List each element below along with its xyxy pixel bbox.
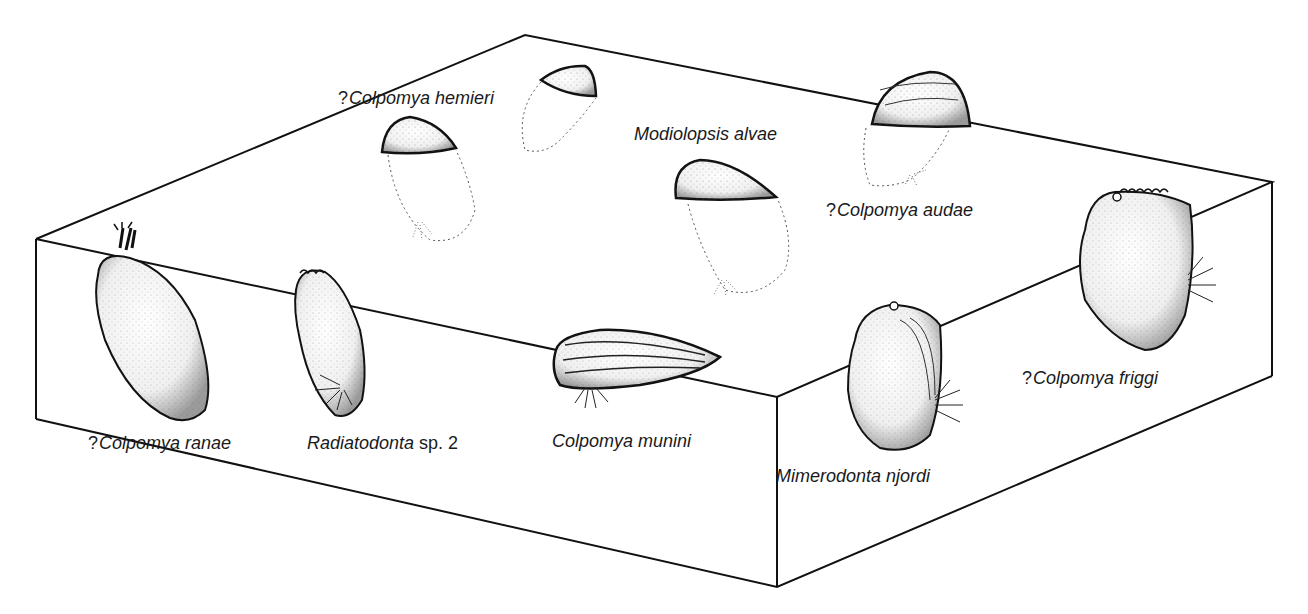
label-modiolopsis-alvae: Modiolopsis alvae — [634, 124, 777, 144]
label-mimerodonta-njordi: Mimerodonta njordi — [776, 466, 930, 486]
label-name: Colpomya friggi — [1033, 368, 1158, 388]
shell-colpomya-hemieri-a — [382, 117, 475, 241]
shell-radiatodonta — [295, 270, 364, 416]
label-prefix: ? — [338, 88, 348, 108]
sediment-block-outline — [36, 35, 1272, 587]
label-name: Mimerodonta njordi — [776, 466, 930, 486]
shell-modiolopsis-alvae — [676, 160, 789, 296]
block-diagram — [0, 0, 1308, 614]
label-name: Colpomya audae — [837, 200, 973, 220]
shell-colpomya-friggi — [1080, 189, 1216, 350]
label-prefix: ? — [826, 200, 836, 220]
label-suffix: sp. 2 — [414, 433, 458, 453]
label-name: Colpomya munini — [552, 431, 691, 451]
label-colpomya-ranae: ?Colpomya ranae — [88, 433, 231, 453]
label-name: Colpomya ranae — [99, 433, 231, 453]
label-radiatodonta: Radiatodonta sp. 2 — [307, 433, 458, 453]
label-colpomya-audae: ?Colpomya audae — [826, 200, 973, 220]
label-name: Colpomya hemieri — [349, 88, 494, 108]
label-colpomya-munini: Colpomya munini — [552, 431, 691, 451]
label-prefix: ? — [1022, 368, 1032, 388]
shell-colpomya-ranae — [96, 222, 208, 420]
shell-colpomya-munini — [554, 330, 720, 408]
label-colpomya-hemieri: ?Colpomya hemieri — [338, 88, 494, 108]
label-name: Radiatodonta — [307, 433, 414, 453]
shell-colpomya-hemieri-b — [522, 66, 596, 151]
label-colpomya-friggi: ?Colpomya friggi — [1022, 368, 1158, 388]
label-prefix: ? — [88, 433, 98, 453]
label-name: Modiolopsis alvae — [634, 124, 777, 144]
shell-colpomya-audae — [864, 72, 970, 186]
